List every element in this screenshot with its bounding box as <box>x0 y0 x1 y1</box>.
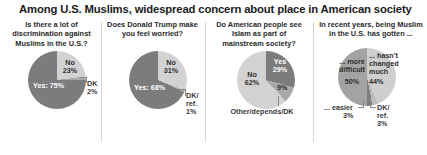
panel-divider <box>313 22 314 142</box>
slice-label-yes: Yes: 68% <box>134 84 165 92</box>
slice-label-other: Other/depends/DK <box>214 108 310 116</box>
pie-chart-discrimination: No 23% Yes: 75% DK 2% <box>2 20 101 120</box>
leader-line <box>178 89 186 90</box>
slice-label-dk-line3: 1% <box>186 108 196 116</box>
slice-label-difficult-line2: difficult <box>338 66 366 74</box>
slice-label-dk-line3: 3% <box>377 120 387 128</box>
slice-label-no-pct: 62% <box>241 79 263 87</box>
chart-panel-recent-years: In recent years, being Muslim in the U.S… <box>316 20 426 155</box>
slice-label-easier-pct: 3% <box>343 112 353 120</box>
leader-line <box>363 99 364 107</box>
slice-label-difficult-pct: 50% <box>338 78 366 86</box>
leader-line <box>358 107 364 108</box>
slice-label-yes: Yes: 75% <box>33 82 64 90</box>
slice-label-no-pct: 31% <box>159 67 183 75</box>
chart-panel-trump-worried: Does Donald Trump make you feel worried?… <box>103 20 202 155</box>
panel-divider <box>101 22 102 142</box>
leader-line <box>370 99 371 107</box>
slice-label-other-pct: 9% <box>277 84 287 92</box>
slice-label-unchanged-pct: 44% <box>369 78 383 86</box>
panel-divider <box>205 22 206 142</box>
chart-panel-discrimination: Is there a lot of discrimination against… <box>2 20 101 155</box>
leader-line <box>370 107 376 108</box>
chart-panel-mainstream: Do American people see Islam as part of … <box>208 20 310 155</box>
slice-label-dk-pct: 2% <box>87 88 97 96</box>
pie-chart-mainstream: Yes 29% No 62% 9% Other/depends/DK <box>208 20 310 120</box>
pie-chart-trump-worried: No 31% Yes: 68% DK/ ref. 1% <box>103 20 202 120</box>
infographic-figure: Among U.S. Muslims, widespread concern a… <box>0 0 427 155</box>
slice-label-no-pct: 23% <box>58 67 82 75</box>
slice-label-unchanged-line3: much <box>369 68 388 76</box>
leader-line <box>278 96 279 106</box>
page-title: Among U.S. Muslims, widespread concern a… <box>19 3 419 15</box>
slice-label-yes-pct: 29% <box>269 66 291 74</box>
leader-line <box>80 77 87 78</box>
pie-chart-recent-years: ... more difficult 50% ... hasn't change… <box>316 20 426 120</box>
